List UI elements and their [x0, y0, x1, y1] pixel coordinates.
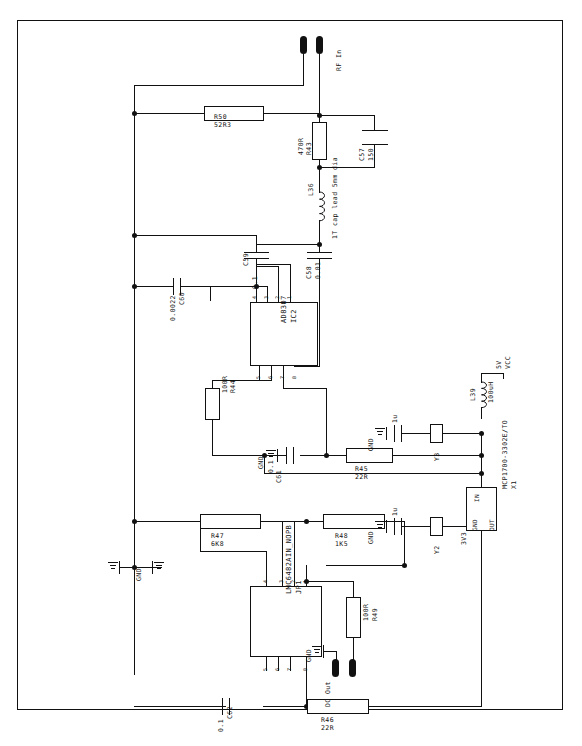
wire-c60-right: [181, 286, 211, 287]
pin-jp1-4: 4: [263, 580, 268, 583]
label-C62-ref: C62: [227, 706, 235, 719]
label-R44-ref: R44: [230, 380, 238, 393]
label-R46-val: 22R: [321, 725, 334, 733]
label-R43-ref: R43: [306, 142, 314, 155]
label-gnd-dcout: GND: [306, 649, 314, 662]
label-X1-pin-in: IN: [473, 494, 481, 502]
label-gnd-c61: GND: [258, 456, 266, 469]
wire-pin2-bridge: [256, 266, 278, 267]
wire-r47-right: [260, 521, 324, 522]
junction-left-r50: [132, 111, 137, 116]
wire-bottom-left: [134, 706, 226, 707]
terminal-dc-out-gnd[interactable]: [332, 659, 339, 677]
wire-vcc-stub: [503, 373, 504, 379]
pin-ic2-4: 4: [252, 296, 257, 299]
capacitor-C58: [307, 252, 332, 260]
wire-l39-bot: [481, 407, 482, 419]
pin-jp1-7: 7: [287, 668, 292, 671]
pin-ic2-1: 1: [287, 296, 292, 299]
inductor-L36: [312, 192, 327, 221]
wire-l39-to-vcc: [481, 373, 503, 374]
wire-y2-left: [402, 526, 430, 527]
label-R48-val: 1K5: [335, 541, 348, 549]
resistor-R44: [205, 388, 220, 420]
capacitor-Y2-plates: [394, 518, 403, 535]
junction-r47-r48: [304, 519, 309, 524]
pin-ic2-2: 2: [275, 296, 280, 299]
wire-c60-down: [210, 286, 211, 301]
wire-y3-right: [443, 433, 481, 434]
wire-r50-right: [264, 113, 319, 114]
ground-symbol-main: [106, 561, 120, 574]
wire-dcgnd-left: [323, 651, 337, 652]
label-IC2-ref: IC2: [291, 309, 299, 323]
capacitor-C61: [286, 447, 295, 464]
label-X1-pin-out: OUT: [488, 519, 496, 531]
pin-ic2-6: 6: [268, 376, 273, 379]
wire-r49-to-pin1rail: [306, 581, 354, 582]
wire-c59-top-lead: [256, 244, 257, 252]
label-Y3-val: 1u: [392, 414, 400, 423]
label-R43-val: 470R: [298, 138, 306, 155]
label-R49-ref: R49: [372, 608, 380, 621]
label-cap-lead-note: 1T cap lead 5mm dia: [332, 157, 340, 239]
junction-r48-fb: [402, 563, 407, 568]
wire-pin4-left: [200, 551, 267, 552]
wire-r44-bot-lead: [212, 419, 213, 455]
pin-ic2-7: 7: [280, 376, 285, 379]
label-R47-val: 6K8: [211, 541, 224, 549]
wire-gnd-main: [119, 567, 134, 568]
terminal-dc-out-sig[interactable]: [349, 659, 356, 677]
label-L36: L36: [308, 183, 316, 196]
wire-r44-top-lead: [212, 380, 213, 388]
label-R49-val: 100R: [363, 604, 371, 621]
label-3v3-rail: 3V3: [461, 532, 469, 545]
wire-x1-in-down: [481, 475, 482, 487]
resistor-R46: [307, 699, 369, 714]
pin-jp1-3: 3: [279, 580, 284, 583]
ground-symbol-jp1: [152, 561, 166, 574]
label-L39-ref: L39: [470, 388, 478, 401]
wire-pin1-bridge: [256, 264, 290, 265]
wire-term2-down: [303, 54, 304, 86]
wire-c57-top: [319, 115, 375, 116]
pin-jp1-2: 2: [291, 580, 296, 583]
label-gnd-y3: GND: [368, 438, 376, 451]
wire-c61-to-r45: [300, 455, 326, 456]
wire-y3-left: [402, 433, 430, 434]
wire-c59-col-up: [256, 235, 257, 245]
capacitor-Y3: [430, 424, 443, 443]
wire-c57-right-up: [374, 115, 375, 130]
wire-c57-bot: [319, 167, 375, 168]
wire-3v3-down: [481, 526, 482, 706]
label-C57-val: 150: [368, 148, 376, 161]
wire-jp1-pin3: [282, 521, 283, 586]
pin-ic2-3: 3: [264, 296, 269, 299]
wire-fb-452: [264, 473, 482, 474]
label-Y3-ref: Y3: [434, 452, 442, 461]
label-gnd-y2: GND: [368, 531, 376, 544]
terminal-rf-in-gnd[interactable]: [300, 36, 307, 54]
label-Y2-ref: Y2: [434, 545, 442, 554]
wire-rfin-down: [319, 53, 320, 115]
label-C60-val: 0.0022: [170, 295, 178, 321]
wire-jp1-pin2: [294, 521, 295, 586]
label-R50-val: 52R3: [214, 122, 231, 130]
resistor-R43: [312, 122, 327, 160]
wire-bottom-right: [368, 706, 482, 707]
junction-left-c60: [132, 284, 137, 289]
label-X1-part: MCP1700-3302E/TO: [502, 420, 510, 489]
capacitor-C57: [362, 130, 388, 146]
pin-jp1-5: 5: [263, 668, 268, 671]
terminal-rf-in-sig[interactable]: [316, 36, 323, 54]
pin-jp1-8: 8: [303, 668, 308, 671]
wire-bottom-mid: [263, 706, 308, 707]
label-X1-pin-gnd: GND: [471, 519, 479, 531]
label-C58-ref: C58: [306, 266, 314, 279]
label-C60-ref: C60: [179, 292, 187, 305]
wire-r50-left: [134, 113, 204, 114]
label-C61-val: 0.1: [268, 460, 276, 473]
label-C59-val: 0.1: [252, 276, 260, 289]
resistor-R49: [346, 597, 361, 638]
label-L39-val: 100uH: [488, 381, 496, 403]
